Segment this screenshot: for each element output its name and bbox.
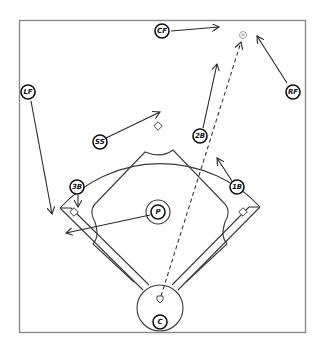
position-rf: RF (286, 85, 300, 99)
position-label: LF (23, 88, 32, 96)
position-label: CF (157, 27, 167, 35)
lf-arrow (31, 101, 52, 214)
position-label: RF (288, 88, 298, 96)
position-2b: 2B (193, 129, 207, 143)
cf-arrow (171, 27, 219, 31)
field-outline (60, 164, 260, 290)
position-c: C (153, 315, 167, 329)
position-cf: CF (155, 24, 169, 38)
p-arrow (66, 215, 150, 233)
position-p: P (151, 205, 165, 219)
position-label: SS (95, 138, 105, 146)
position-label: 1B (232, 183, 242, 191)
ball-path-line (161, 42, 241, 296)
2b-arrow (203, 64, 217, 128)
ss-arrow (106, 112, 160, 138)
position-lf: LF (21, 85, 35, 99)
ball-icon (240, 32, 247, 39)
first-base (239, 208, 247, 216)
third-base (70, 208, 78, 216)
position-label: C (157, 318, 163, 326)
position-ss: SS (93, 135, 107, 149)
position-3b: 3B (70, 180, 84, 194)
position-label: P (155, 208, 161, 216)
position-label: 2B (195, 132, 205, 140)
second-base (154, 122, 162, 130)
rf-arrow (257, 36, 287, 83)
position-1b: 1B (230, 180, 244, 194)
diagram-frame (20, 21, 306, 333)
baseball-field-diagram: CF LF RF SS 2B 3B 1B P C (0, 0, 323, 348)
home-plate (157, 296, 163, 303)
position-label: 3B (72, 183, 82, 191)
